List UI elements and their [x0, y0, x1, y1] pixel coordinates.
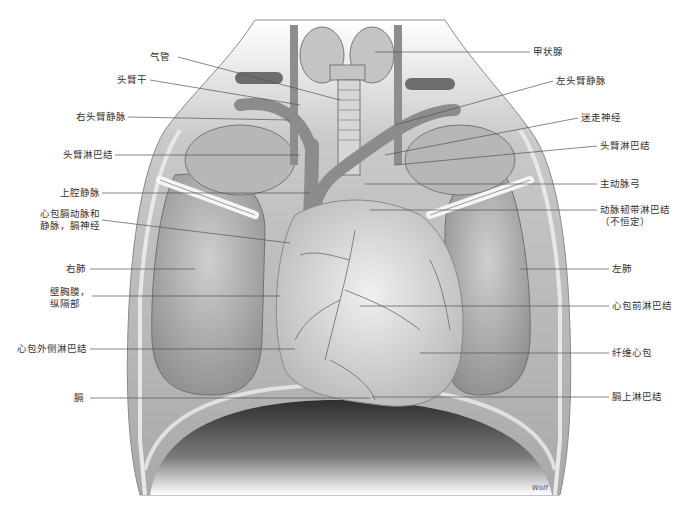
label-brachiocephalic-trunk: 头臂干 [117, 74, 147, 86]
label-ligamentum-line2: （不恒定） [600, 216, 670, 228]
label-fibrous-pericardium: 纤维心包 [612, 347, 652, 359]
label-vagus-nerve: 迷走神经 [581, 112, 621, 124]
label-brachiocephalic-lymph-node-left: 头臂淋巴结 [600, 140, 650, 152]
label-ligamentum-line1: 动脉韧带淋巴结 [600, 204, 670, 216]
label-ligamentum-arteriosum-lymph-node: 动脉韧带淋巴结 （不恒定） [600, 204, 670, 228]
label-right-lung: 右肺 [66, 263, 86, 275]
label-thyroid-gland: 甲状腺 [533, 46, 563, 58]
label-pericardiacophrenic: 心包膈动脉和 静脉，膈神经 [40, 208, 100, 232]
label-pericardiacophrenic-line1: 心包膈动脉和 [40, 208, 100, 220]
heart-pericardium-shape [276, 200, 463, 406]
label-trachea: 气管 [150, 51, 170, 63]
label-superior-phrenic-lymph-nodes: 膈上淋巴结 [612, 391, 662, 403]
label-parietal-pleura-line1: 壁胸膜， [50, 286, 90, 298]
label-right-brachiocephalic-vein: 右头臂静脉 [76, 111, 126, 123]
subclavian-left-stub [405, 78, 455, 90]
left-jugular [394, 25, 402, 165]
label-superior-vena-cava: 上腔静脉 [60, 187, 100, 199]
label-prepericardial-lymph-nodes: 心包前淋巴结 [612, 300, 672, 312]
label-parietal-pleura: 壁胸膜， 纵隔部 [50, 286, 90, 310]
left-lung-apex [405, 125, 515, 195]
right-lung-shape [152, 172, 265, 395]
label-parietal-pleura-line2: 纵隔部 [50, 298, 90, 310]
label-diaphragm: 膈 [74, 392, 84, 404]
right-lung-apex [185, 125, 295, 195]
label-brachiocephalic-lymph-node-right: 头臂淋巴结 [63, 149, 113, 161]
label-left-brachiocephalic-vein: 左头臂静脉 [556, 75, 606, 87]
right-jugular [290, 25, 298, 165]
label-left-lung: 左肺 [612, 263, 632, 275]
label-aortic-arch: 主动脉弓 [600, 178, 640, 190]
anatomy-figure: 气管 头臂干 右头臂静脉 头臂淋巴结 上腔静脉 心包膈动脉和 静脉，膈神经 右肺… [0, 0, 685, 513]
label-lateral-pericardial-lymph-nodes: 心包外侧淋巴结 [17, 343, 87, 355]
artist-signature: Wolf [532, 482, 548, 494]
label-pericardiacophrenic-line2: 静脉，膈神经 [40, 220, 100, 232]
